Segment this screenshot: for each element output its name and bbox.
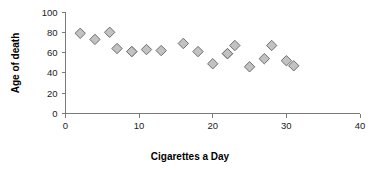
x-tick-label: 0 bbox=[63, 120, 68, 131]
data-point-marker bbox=[104, 27, 114, 37]
data-point-marker bbox=[222, 48, 232, 58]
y-tick-label: 20 bbox=[47, 88, 58, 99]
data-point-marker bbox=[230, 40, 240, 50]
data-point-marker bbox=[208, 59, 218, 69]
y-tick-label: 0 bbox=[52, 108, 57, 119]
x-tick-label: 30 bbox=[281, 120, 292, 131]
x-tick-label: 20 bbox=[207, 120, 218, 131]
x-tick-marks bbox=[66, 114, 361, 118]
data-point-marker bbox=[244, 62, 254, 72]
data-point-marker bbox=[178, 38, 188, 48]
y-tick-label: 100 bbox=[42, 7, 58, 18]
y-tick-label: 60 bbox=[47, 47, 58, 58]
y-axis: 020406080100 bbox=[42, 7, 66, 120]
data-point-marker bbox=[141, 44, 151, 54]
data-point-marker bbox=[127, 46, 137, 56]
x-tick-labels: 010203040 bbox=[63, 120, 365, 131]
x-tick-label: 10 bbox=[134, 120, 145, 131]
x-tick-label: 40 bbox=[355, 120, 366, 131]
y-tick-labels: 020406080100 bbox=[42, 7, 58, 120]
scatter-chart: 020406080100 010203040 Cigarettes a Day … bbox=[0, 0, 380, 174]
data-point-marker bbox=[259, 53, 269, 63]
data-point-marker bbox=[90, 34, 100, 44]
data-point-group bbox=[75, 27, 299, 72]
data-point-marker bbox=[75, 28, 85, 38]
data-point-marker bbox=[193, 46, 203, 56]
data-point-marker bbox=[112, 43, 122, 53]
y-tick-marks bbox=[62, 12, 66, 114]
x-axis-title: Cigarettes a Day bbox=[151, 151, 230, 162]
y-tick-label: 40 bbox=[47, 67, 58, 78]
x-axis: 010203040 bbox=[63, 114, 365, 131]
y-tick-label: 80 bbox=[47, 27, 58, 38]
y-axis-title: Age of death bbox=[10, 33, 21, 94]
data-point-marker bbox=[156, 45, 166, 55]
chart-canvas: 020406080100 010203040 Cigarettes a Day … bbox=[0, 0, 380, 174]
data-point-marker bbox=[266, 40, 276, 50]
